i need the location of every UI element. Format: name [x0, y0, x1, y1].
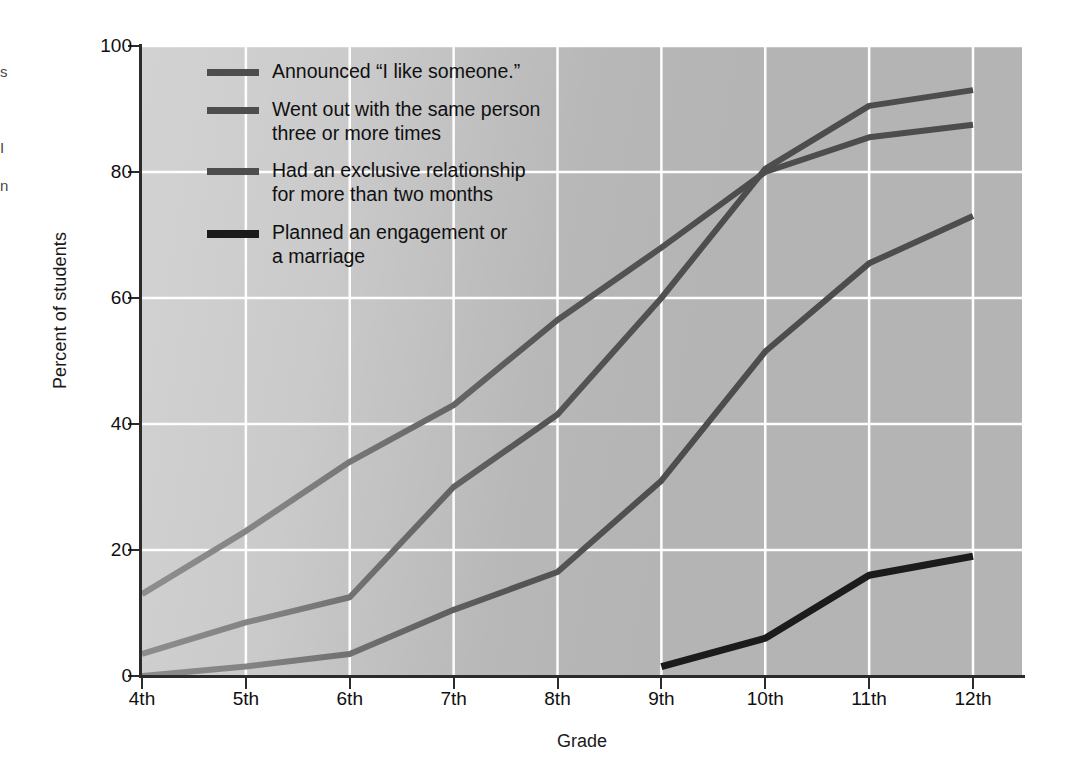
- legend-swatch-icon: [207, 230, 259, 238]
- page-edge-fragment: I: [0, 140, 14, 155]
- y-axis-tick-labels: 020406080100: [78, 0, 132, 776]
- legend-entry: Planned an engagement or a marriage: [207, 221, 637, 269]
- legend-label: Announced “I like someone.”: [272, 60, 520, 84]
- x-axis-tick-label: 5th: [206, 688, 286, 710]
- legend-swatch-icon: [207, 107, 259, 114]
- legend-swatch-icon: [207, 69, 259, 76]
- chart-legend: Announced “I like someone.” Went out wit…: [207, 60, 637, 282]
- x-axis-tick-label: 8th: [518, 688, 598, 710]
- y-axis-tick-label: 100: [86, 35, 132, 57]
- page-edge-fragment: n: [0, 178, 14, 193]
- y-axis-spine: [139, 44, 142, 678]
- x-axis-spine: [139, 675, 1025, 678]
- legend-entry: Had an exclusive relationship for more t…: [207, 159, 637, 207]
- legend-entry: Went out with the same person three or m…: [207, 98, 637, 146]
- legend-entry: Announced “I like someone.”: [207, 60, 637, 84]
- y-axis-tick-label: 80: [86, 161, 132, 183]
- x-axis-title: Grade: [142, 731, 1022, 752]
- y-axis-title: Percent of students: [50, 201, 71, 421]
- legend-label: Planned an engagement or a marriage: [272, 221, 507, 269]
- x-axis-tick-label: 9th: [621, 688, 701, 710]
- y-axis-tick-label: 20: [86, 539, 132, 561]
- x-axis-tick-label: 6th: [310, 688, 390, 710]
- legend-label: Went out with the same person three or m…: [272, 98, 540, 146]
- x-axis-tick-label: 12th: [933, 688, 1013, 710]
- x-axis-tick-label: 4th: [102, 688, 182, 710]
- y-axis-tick-label: 40: [86, 413, 132, 435]
- legend-swatch-icon: [207, 168, 259, 175]
- x-axis-tick-label: 11th: [829, 688, 909, 710]
- y-axis-tick-label: 0: [86, 665, 132, 687]
- series-line: [661, 556, 973, 666]
- chart-figure: s I n Percent of students 020406080100 4…: [0, 0, 1068, 776]
- y-axis-tick-label: 60: [86, 287, 132, 309]
- legend-label: Had an exclusive relationship for more t…: [272, 159, 526, 207]
- x-axis-tick-label: 10th: [725, 688, 805, 710]
- page-edge-fragment: s: [0, 64, 14, 79]
- x-axis-tick-label: 7th: [414, 688, 494, 710]
